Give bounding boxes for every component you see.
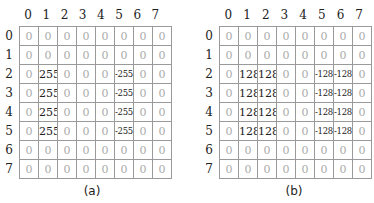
row-label: 5 [200,121,218,140]
column-label: 2 [55,8,73,22]
matrix-cell: 0 [58,160,77,179]
matrix-cell: 0 [153,160,172,179]
matrix-cell: 255 [39,65,58,84]
matrix-cell: 0 [258,141,277,160]
matrix-row: 0255000-25500 [20,103,172,122]
matrix-cell: 0 [353,46,372,65]
matrix-cell: 0 [20,103,39,122]
row-label: 4 [0,102,18,121]
matrix-cell: 128 [239,122,258,141]
matrix-row: 012812800-128-1280 [220,122,372,141]
matrix-cell: 0 [334,27,353,46]
column-label: 1 [37,8,55,22]
matrix-cell: 0 [115,27,134,46]
matrix-cell: 0 [296,84,315,103]
row-label: 6 [200,140,218,159]
matrix-cell: 0 [277,122,296,141]
matrix-cell: 0 [58,122,77,141]
column-label: 4 [294,8,313,22]
column-label: 1 [238,8,257,22]
matrix-cell: 0 [296,46,315,65]
matrix-cell: 0 [20,46,39,65]
matrix-cell: 0 [353,27,372,46]
matrix-cell: -128 [334,122,353,141]
row-label: 6 [0,140,18,159]
matrix-cell: 0 [353,160,372,179]
matrix-cell: -128 [334,65,353,84]
matrix-cell: 0 [220,46,239,65]
matrix-cell: -128 [334,84,353,103]
matrix-cell: 0 [77,27,96,46]
matrix-cell: 0 [39,160,58,179]
matrix-cell: 0 [134,141,153,160]
row-label: 1 [0,45,18,64]
matrix-cell: 0 [220,84,239,103]
column-label: 2 [256,8,275,22]
matrix-cell: 0 [220,27,239,46]
matrix-cell: 0 [334,141,353,160]
matrix-cell: 0 [258,27,277,46]
matrix-row: 00000000 [20,27,172,46]
matrix-cell: 0 [277,84,296,103]
pixel-matrix-a: 00000000000000000255000-255000255000-255… [19,26,172,179]
matrix-cell: 0 [296,122,315,141]
row-label: 7 [0,159,18,178]
matrix-cell: -128 [315,65,334,84]
matrix-cell: 0 [96,27,115,46]
matrix-cell: 0 [96,65,115,84]
column-labels: 01234567 [19,8,165,22]
matrix-cell: 0 [353,65,372,84]
column-label: 6 [331,8,350,22]
row-label: 2 [200,64,218,83]
matrix-cell: 0 [296,65,315,84]
matrix-cell: 0 [96,84,115,103]
matrix-cell: -128 [315,84,334,103]
matrix-cell: 0 [115,160,134,179]
matrix-row: 012812800-128-1280 [220,103,372,122]
matrix-cell: 0 [39,141,58,160]
matrix-cell: 0 [77,65,96,84]
matrix-cell: 0 [58,141,77,160]
column-label: 5 [312,8,331,22]
matrix-cell: 0 [296,27,315,46]
matrix-cell: 0 [58,27,77,46]
matrix-row: 00000000 [20,160,172,179]
matrix-cell: 0 [20,27,39,46]
matrix-cell: 0 [58,65,77,84]
matrix-cell: 255 [39,103,58,122]
matrix-cell: 128 [239,103,258,122]
matrix-cell: 0 [134,65,153,84]
matrix-cell: 0 [258,46,277,65]
matrix-cell: 0 [353,84,372,103]
matrix-cell: 0 [96,122,115,141]
matrix-cell: 0 [77,46,96,65]
matrix-cell: 0 [296,141,315,160]
matrix-cell: 0 [58,46,77,65]
matrix-cell: 0 [96,103,115,122]
matrix-cell: 0 [296,103,315,122]
matrix-cell: 0 [153,122,172,141]
matrix-cell: 0 [96,46,115,65]
matrix-cell: -255 [115,65,134,84]
matrix-cell: -255 [115,103,134,122]
column-label: 4 [92,8,110,22]
matrix-cell: 0 [134,160,153,179]
matrix-cell: 0 [153,65,172,84]
matrix-cell: 0 [20,65,39,84]
matrix-cell: 0 [315,141,334,160]
matrix-cell: 0 [334,160,353,179]
matrix-cell: 0 [239,141,258,160]
matrix-cell: 0 [153,84,172,103]
matrix-row: 00000000 [220,46,372,65]
matrix-cell: 0 [20,160,39,179]
matrix-cell: 0 [20,122,39,141]
matrix-cell: 128 [258,84,277,103]
matrix-cell: 0 [153,27,172,46]
matrix-cell: 0 [315,46,334,65]
row-labels: 01234567 [200,26,218,178]
matrix-cell: 0 [334,46,353,65]
matrix-cell: 0 [277,160,296,179]
matrix-cell: 0 [77,122,96,141]
matrix-cell: 0 [115,141,134,160]
matrix-cell: 0 [39,46,58,65]
